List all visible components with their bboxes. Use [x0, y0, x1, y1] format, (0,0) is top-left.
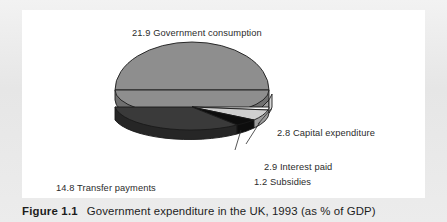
figure-caption: Figure 1.1Government expenditure in the …	[22, 204, 442, 222]
label-transfer-payments: 14.8 Transfer payments	[56, 183, 156, 194]
figure-caption-text: Government expenditure in the UK, 1993 (…	[87, 205, 376, 217]
figure-panel: 21.9 Government consumption 2.8 Capital …	[22, 10, 425, 198]
figure-screenshot: 21.9 Government consumption 2.8 Capital …	[0, 0, 447, 222]
pie-chart: 21.9 Government consumption 2.8 Capital …	[22, 10, 425, 198]
figure-caption-number: Figure 1.1	[22, 205, 78, 217]
label-interest-paid: 2.9 Interest paid	[264, 162, 332, 173]
label-subsidies: 1.2 Subsidies	[254, 177, 311, 188]
label-capital-expenditure: 2.8 Capital expenditure	[277, 128, 375, 139]
label-government-consumption: 21.9 Government consumption	[132, 28, 262, 39]
